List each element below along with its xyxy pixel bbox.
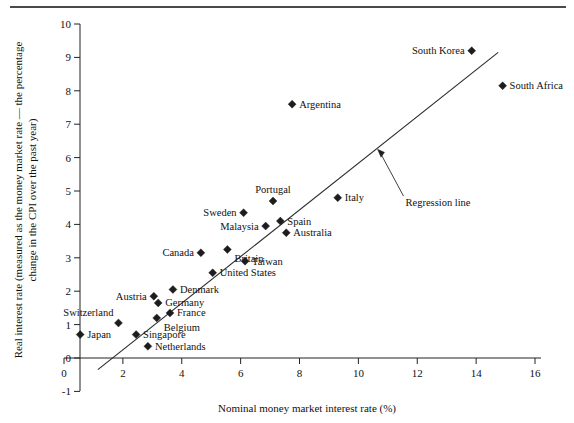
x-tick-label-4: 4: [179, 367, 185, 379]
data-point: Sweden: [203, 207, 247, 218]
data-point: Australia: [282, 227, 332, 238]
marker-diamond: [223, 245, 231, 253]
data-point: Denmark: [169, 284, 220, 295]
x-tick-label-16: 16: [530, 367, 542, 379]
marker-diamond: [76, 331, 84, 339]
data-point: France: [166, 307, 206, 318]
y-tick-label-6: 6: [66, 152, 72, 164]
x-tick-label-2: 2: [120, 367, 126, 379]
y-tick-label-0: 0: [66, 352, 72, 364]
y-tick-label-4: 4: [66, 218, 72, 230]
data-point-label: Portugal: [255, 184, 291, 195]
x-tick-label-8: 8: [297, 367, 303, 379]
y-tick-label-10: 10: [60, 18, 72, 30]
data-point-label: Sweden: [203, 207, 237, 218]
data-point-label: United States: [220, 267, 276, 278]
data-point: Malaysia: [220, 221, 270, 232]
marker-diamond: [282, 229, 290, 237]
data-point-label: Denmark: [180, 284, 220, 295]
y-tick-label--1: -1: [62, 385, 71, 397]
marker-diamond: [114, 319, 122, 327]
x-tick-label-6: 6: [238, 367, 244, 379]
y-tick-label-9: 9: [66, 51, 72, 63]
data-point: South Korea: [412, 45, 476, 56]
data-point-label: Taiwan: [252, 256, 284, 267]
data-point-label: Italy: [345, 192, 365, 203]
annotation-arrow-line: [381, 153, 404, 196]
data-point-label: Netherlands: [155, 341, 206, 352]
data-point-label: France: [177, 307, 206, 318]
data-point: Argentina: [288, 99, 341, 110]
figure-container: 109876543210-1 0246810121416 Regression …: [0, 0, 574, 423]
marker-diamond: [468, 47, 476, 55]
data-point-label: Austria: [116, 291, 147, 302]
marker-diamond: [150, 292, 158, 300]
y-tick-label-3: 3: [66, 252, 72, 264]
marker-diamond: [262, 222, 270, 230]
marker-diamond: [269, 197, 277, 205]
regression-line: [98, 52, 498, 369]
data-point-label: Belgium: [164, 322, 200, 333]
annotation-arrow-head: [378, 149, 385, 157]
data-point: South Africa: [499, 80, 564, 91]
marker-diamond: [197, 249, 205, 257]
x-axis-title: Nominal money market interest rate (%): [218, 402, 396, 415]
y-axis-ticks: 109876543210-1: [60, 18, 80, 397]
y-tick-label-5: 5: [66, 185, 72, 197]
y-axis-title-line-1: Real interest rate (measured as the mone…: [12, 42, 25, 359]
data-point: Canada: [162, 247, 205, 258]
regression-annotation: Regression line: [378, 149, 471, 208]
y-tick-label-8: 8: [66, 85, 72, 97]
marker-diamond: [169, 286, 177, 294]
data-point-label: Japan: [87, 329, 112, 340]
data-point-label: Malaysia: [220, 221, 259, 232]
marker-diamond: [499, 82, 507, 90]
x-axis-ticks: 0246810121416: [61, 358, 541, 379]
y-axis-title: Real interest rate (measured as the mone…: [12, 42, 39, 359]
y-axis-title-line-2: change in the CPI over the past year): [26, 118, 39, 281]
data-point-label: South Korea: [412, 45, 465, 56]
x-tick-label-12: 12: [412, 367, 423, 379]
x-tick-label-14: 14: [471, 367, 483, 379]
x-tick-label-0: 0: [61, 367, 67, 379]
y-tick-label-7: 7: [66, 118, 72, 130]
marker-diamond: [144, 342, 152, 350]
data-point: Japan: [76, 329, 112, 340]
y-tick-label-1: 1: [66, 319, 72, 331]
marker-diamond: [209, 269, 217, 277]
annotation-label: Regression line: [405, 197, 470, 208]
data-point-label: Spain: [287, 216, 312, 227]
data-point-label: Australia: [293, 227, 332, 238]
data-point: Portugal: [255, 184, 291, 205]
data-point: United States: [209, 267, 276, 278]
marker-diamond: [288, 100, 296, 108]
data-point: Spain: [276, 216, 312, 227]
marker-diamond: [276, 217, 284, 225]
x-tick-label-10: 10: [353, 367, 365, 379]
data-point-label: Argentina: [299, 99, 341, 110]
marker-diamond: [154, 299, 162, 307]
data-point: Switzerland: [63, 307, 122, 327]
data-point-label: South Africa: [510, 80, 564, 91]
data-point: Netherlands: [144, 341, 206, 352]
marker-diamond: [334, 194, 342, 202]
data-point-label: Switzerland: [63, 307, 114, 318]
scatter-plot: 109876543210-1 0246810121416 Regression …: [0, 0, 574, 423]
data-point: Austria: [116, 291, 158, 302]
marker-diamond: [240, 209, 248, 217]
data-point: Italy: [334, 192, 365, 203]
data-point-label: Canada: [162, 247, 194, 258]
y-tick-label-2: 2: [66, 285, 72, 297]
